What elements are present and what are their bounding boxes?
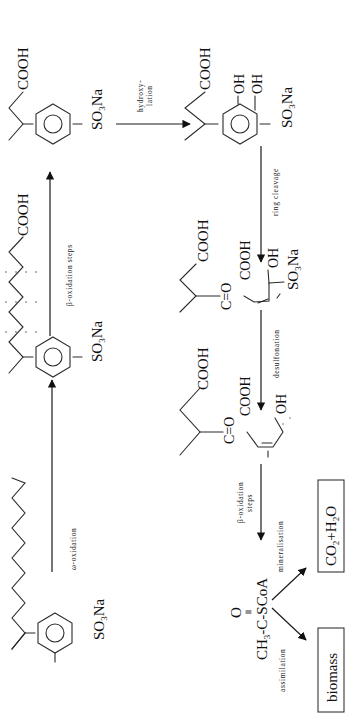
ring-cleaved-so3na: SO3Na: [285, 248, 303, 290]
assimilation-label: assimilation: [278, 649, 287, 692]
step-beta-oxidation: β-oxidation steps: [50, 172, 74, 336]
ring-cleaved-cooh: COOH: [195, 219, 211, 262]
step-mineralisation: mineralisation: [272, 521, 306, 600]
step-assimilation: assimilation: [272, 608, 306, 692]
omega-oxidation-label: ω-oxidation: [69, 528, 78, 570]
product-co2-h2o: CO2+H2O: [318, 480, 344, 572]
product-biomass: biomass: [318, 628, 344, 712]
ring-cleavage-label: ring cleavage: [271, 168, 280, 216]
compound-acetyl-coa: O CH3-C-SCoA: [228, 578, 272, 660]
carboxylate-long-so3na: SO3Na: [89, 320, 107, 362]
biomass-label: biomass: [324, 653, 340, 702]
desulfonated-cooh2: COOH: [238, 376, 253, 416]
desulfonated-oh: OH: [274, 394, 289, 414]
hydroxylation-label-line1: hydroxy-: [136, 80, 145, 112]
desulfonated-co: C=O: [222, 417, 237, 444]
las-degradation-pathway-diagram: SO3Na ω-oxidation COOH SO3Na β-oxidation…: [0, 0, 359, 717]
step-hydroxylation: hydroxy- lation: [116, 80, 190, 124]
beta-oxidation-2-label-line2: steps: [245, 494, 254, 512]
catechol-cooh: COOH: [197, 47, 213, 90]
compound-carboxylate-short: COOH SO3Na: [9, 47, 107, 144]
co2-h2o-label: CO2+H2O: [323, 506, 341, 566]
carboxylate-short-so3na: SO3Na: [89, 88, 107, 130]
desulfonation-label: desulfonation: [272, 329, 281, 378]
compound-carboxylate-long: COOH SO3Na: [5, 193, 107, 377]
carboxylate-short-cooh: COOH: [15, 47, 31, 90]
catechol-oh2: OH: [250, 74, 265, 94]
las-so3na: SO3Na: [91, 598, 109, 640]
acetyl-coa-o: O: [228, 607, 244, 618]
beta-oxidation-label: β-oxidation steps: [65, 244, 74, 306]
step-omega-oxidation: ω-oxidation: [52, 380, 78, 572]
ring-cleaved-oh: OH: [266, 248, 281, 268]
compound-ring-cleaved: COOH C=O COOH OH SO3Na: [180, 219, 303, 312]
step-beta-oxidation-2: β-oxidation steps: [236, 464, 261, 540]
desulfonated-cooh: COOH: [195, 347, 211, 390]
beta-oxidation-2-label-line1: β-oxidation: [236, 482, 245, 523]
catechol-so3na: SO3Na: [279, 86, 297, 128]
compound-las: SO3Na: [12, 478, 109, 662]
mineralisation-label: mineralisation: [276, 521, 285, 572]
compound-catechol: COOH OH OH SO3Na: [185, 47, 297, 144]
hydroxylation-label-line2: lation: [145, 85, 154, 106]
ring-cleaved-cooh2: COOH: [238, 240, 253, 280]
acetyl-coa-formula: CH3-C-SCoA: [254, 578, 272, 660]
ring-cleaved-co: C=O: [219, 283, 234, 310]
step-ring-cleavage: ring cleavage: [261, 146, 280, 262]
carboxylate-long-cooh: COOH: [15, 193, 31, 236]
catechol-oh1: OH: [232, 74, 247, 94]
